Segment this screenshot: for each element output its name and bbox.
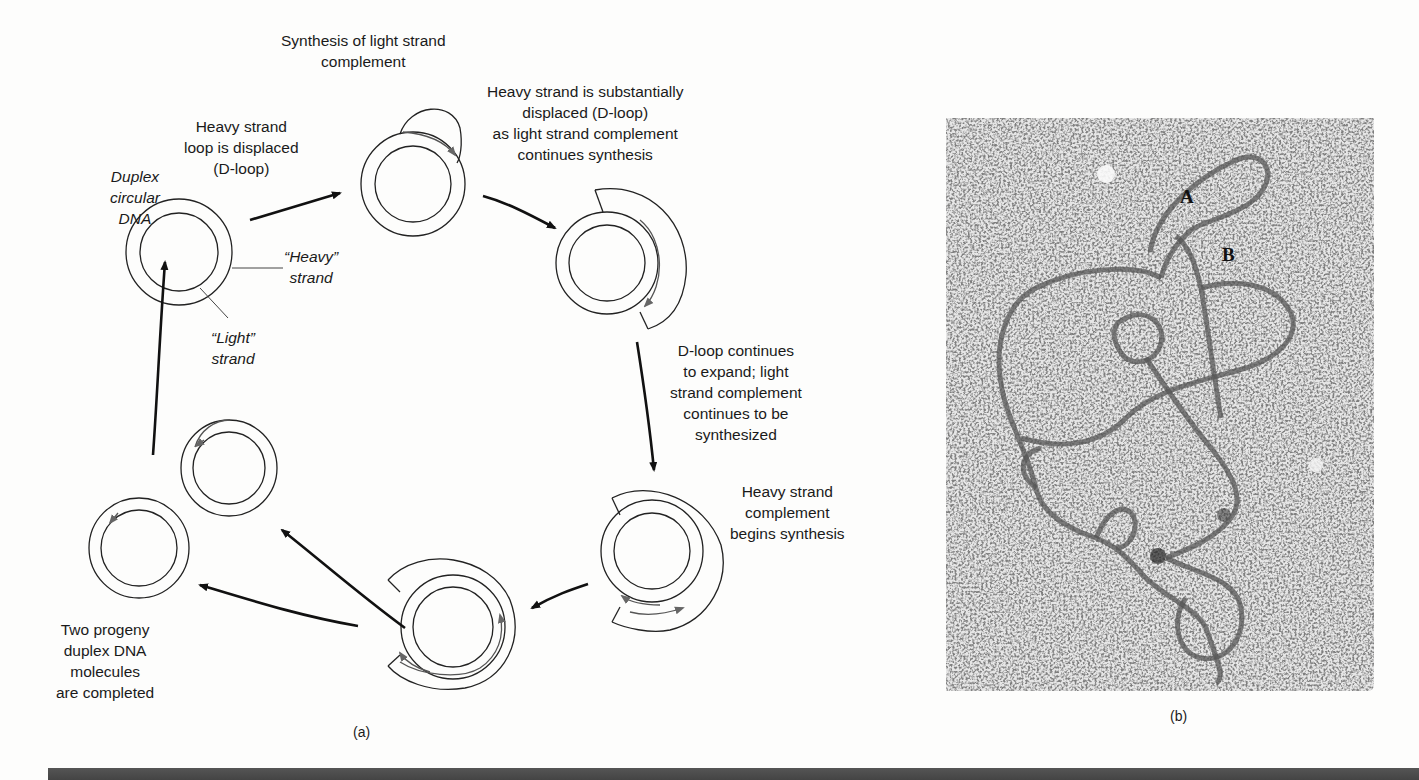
label-line: to expand; light [670,361,802,382]
label-heavy-strand: “Heavy” strand [284,246,338,288]
label-line: strand [284,267,338,288]
label-line: duplex DNA [56,640,154,661]
label-line: as light strand complement [487,123,683,144]
electron-micrograph: A B [946,118,1374,691]
micrograph-marker-a: A [1180,186,1194,208]
bottom-rule [48,768,1419,780]
label-line: Duplex [110,166,160,187]
flow-arrows [153,193,654,628]
label-line: strand [211,348,255,369]
progeny-circle-2 [89,498,189,598]
label-dloop-displaced: Heavy strand loop is displaced (D-loop) [184,116,299,179]
label-line: displaced (D-loop) [487,102,683,123]
label-substantially-displaced: Heavy strand is substantially displaced … [487,81,683,165]
label-line: strand complement [670,382,802,403]
dloop-circle-completing [388,559,515,689]
dloop-circle-heavy-complement [601,491,723,632]
label-light-strand-synthesis: Synthesis of light strand complement [281,30,446,72]
label-light-strand: “Light” strand [211,327,255,369]
label-line: continues synthesis [487,144,683,165]
label-line: complement [730,502,845,523]
label-line: molecules [56,661,154,682]
caption-b: (b) [1170,706,1187,727]
label-line: Synthesis of light strand [281,30,446,51]
label-line: Heavy strand is substantially [487,81,683,102]
micrograph-marker-b: B [1222,244,1235,266]
progeny-circle-1 [181,420,277,516]
label-line: begins synthesis [730,523,845,544]
label-line: loop is displaced [184,137,299,158]
label-line: “Light” [211,327,255,348]
dloop-circle-small [361,109,465,236]
label-line: complement [281,51,446,72]
label-line: circular [110,187,160,208]
label-line: Heavy strand [184,116,299,137]
label-line: DNA [110,208,160,229]
caption-a: (a) [353,722,370,743]
label-heavy-complement: Heavy strand complement begins synthesis [730,481,845,544]
label-line: (D-loop) [184,158,299,179]
label-line: are completed [56,682,154,703]
label-line: “Heavy” [284,246,338,267]
label-line: Two progeny [56,619,154,640]
dloop-circle-large [556,189,686,329]
label-duplex-circular-dna: Duplex circular DNA [110,166,160,229]
label-line: continues to be [670,403,802,424]
label-progeny: Two progeny duplex DNA molecules are com… [56,619,154,703]
label-line: Heavy strand [730,481,845,502]
micrograph-image [946,118,1374,691]
label-line: synthesized [670,424,802,445]
label-line: D-loop continues [670,340,802,361]
label-dloop-expands: D-loop continues to expand; light strand… [670,340,802,445]
